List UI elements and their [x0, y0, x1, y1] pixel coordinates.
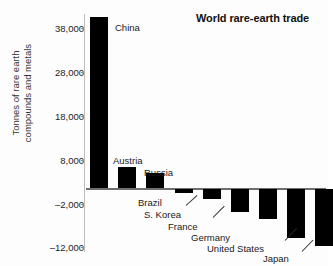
bar-japan: [315, 189, 333, 246]
data-label-united-states: United States: [207, 243, 264, 254]
data-label-japan: Japan: [263, 253, 289, 264]
bar-austria: [118, 167, 136, 188]
y-axis-line: [84, 14, 85, 252]
y-axis-label-line-1: Tonnes of rare earth: [10, 28, 22, 158]
data-label-china: China: [115, 22, 140, 33]
y-tick-label-neg2000: –2,000: [28, 199, 84, 210]
y-axis-ticks: 38,000 28,000 18,000 8,000 –2,000 –12,00…: [22, 0, 84, 266]
data-label-germany: Germany: [191, 232, 230, 243]
bar-france: [231, 189, 249, 212]
data-label-france: France: [168, 221, 198, 232]
y-tick-label-neg12000: –12,000: [28, 242, 84, 253]
bar-s-korea: [203, 189, 221, 199]
data-label-austria: Austria: [113, 155, 143, 166]
data-label-s-korea: S. Korea: [144, 209, 181, 220]
y-tick-label-38000: 38,000: [28, 23, 84, 34]
bar-germany: [259, 189, 277, 219]
data-label-russia: Russia: [144, 167, 173, 178]
bar-china: [90, 17, 108, 188]
y-tick-label-8000: 8,000: [28, 155, 84, 166]
bar-united-states: [287, 189, 305, 238]
y-tick-label-18000: 18,000: [28, 111, 84, 122]
plot-area: [86, 10, 326, 254]
bar-brazil: [175, 189, 193, 193]
data-label-brazil: Brazil: [138, 197, 162, 208]
y-tick-label-28000: 28,000: [28, 67, 84, 78]
